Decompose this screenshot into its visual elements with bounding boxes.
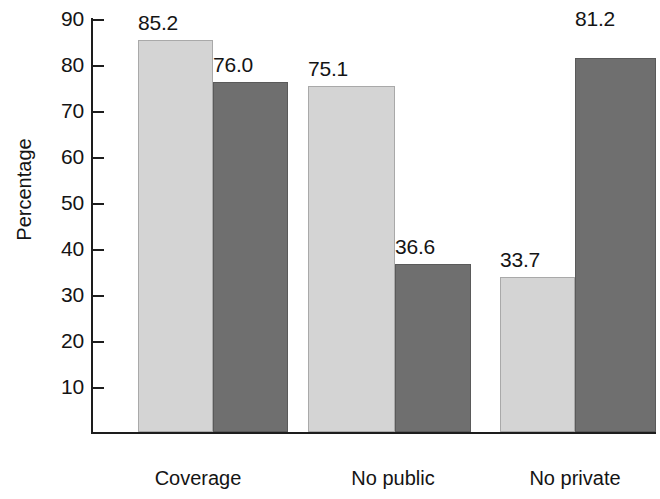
- x-category-label-no-public-assistance-line1: No public: [308, 467, 478, 490]
- x-category-label-coverage: Coverage: [108, 444, 288, 499]
- x-axis-line: [91, 432, 656, 434]
- y-tick-label-60: 60: [44, 146, 84, 167]
- bar-no-public-assistance-light[interactable]: [308, 86, 395, 432]
- bar-no-private-insurance-dark[interactable]: [575, 58, 656, 432]
- bar-coverage-dark[interactable]: [213, 82, 288, 432]
- value-label-no-private-insurance-light: 33.7: [480, 249, 560, 270]
- y-tick-label-80: 80: [44, 54, 84, 75]
- value-label-coverage-light: 85.2: [118, 12, 198, 33]
- value-label-no-private-insurance-dark: 81.2: [555, 8, 635, 29]
- x-category-label-coverage-line1: Coverage: [108, 467, 288, 490]
- x-category-label-no-private-insurance-line1: No private: [490, 467, 660, 490]
- value-label-coverage-dark: 76.0: [193, 54, 273, 75]
- x-category-label-no-private-insurance: No private insurance: [490, 444, 660, 499]
- y-tick-label-30: 30: [44, 284, 84, 305]
- y-tick-label-20: 20: [44, 330, 84, 351]
- value-label-no-public-assistance-dark: 36.6: [375, 236, 455, 257]
- bar-no-private-insurance-light[interactable]: [500, 277, 575, 432]
- bars-layer: [91, 18, 656, 432]
- bar-chart: Percentage 90 80 70 60 50 40 30 20 10: [0, 0, 660, 499]
- y-tick-label-50: 50: [44, 192, 84, 213]
- bar-no-public-assistance-dark[interactable]: [395, 264, 471, 432]
- x-category-label-no-public-assistance: No public assistance: [308, 444, 478, 499]
- y-tick-label-10: 10: [44, 376, 84, 397]
- y-axis-title: Percentage: [13, 100, 36, 280]
- value-label-no-public-assistance-light: 75.1: [288, 58, 368, 79]
- y-tick-label-40: 40: [44, 238, 84, 259]
- y-tick-label-70: 70: [44, 100, 84, 121]
- bar-coverage-light[interactable]: [138, 40, 213, 432]
- y-tick-label-90: 90: [44, 8, 84, 29]
